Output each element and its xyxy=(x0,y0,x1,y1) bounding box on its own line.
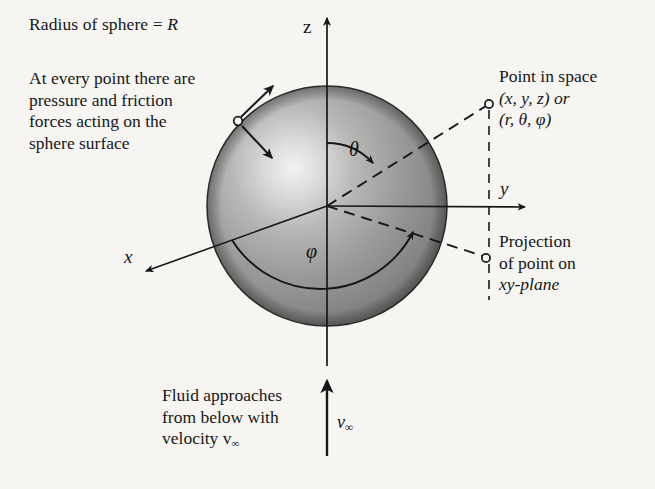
projection-of-point-note: Projection of point on xy-plane xyxy=(499,231,649,296)
velocity-subscript: ∞ xyxy=(345,421,353,433)
radius-symbol: R xyxy=(167,14,178,34)
projection-note-line-3: xy-plane xyxy=(499,274,649,296)
radius-note-text: Radius of sphere = xyxy=(29,14,167,34)
surface-note-line-4: sphere surface xyxy=(29,133,244,155)
figure-sphere-spherical-coordinates: Radius of sphere = R At every point ther… xyxy=(0,0,655,489)
phi-angle-label: φ xyxy=(306,240,317,263)
fluid-note-line-3-text: velocity v xyxy=(162,428,232,448)
projection-note-line-2: of point on xyxy=(499,253,649,275)
x-axis-label: x xyxy=(124,246,132,268)
fluid-note-velocity-subscript: ∞ xyxy=(232,437,240,449)
surface-note-line-3: forces acting on the xyxy=(29,111,244,133)
surface-note-line-2: pressure and friction xyxy=(29,90,244,112)
fluid-note-line-3: velocity v∞ xyxy=(162,428,327,455)
projection-note-line-1: Projection xyxy=(499,231,649,253)
point-note-line-3: (r, θ, φ) xyxy=(499,109,649,131)
theta-angle-label: θ xyxy=(349,138,359,161)
velocity-arrow-label: v∞ xyxy=(337,412,353,433)
fluid-note-line-1: Fluid approaches xyxy=(162,385,327,407)
z-axis-label: z xyxy=(303,16,311,38)
projection-point-marker xyxy=(482,254,490,262)
fluid-approach-note: Fluid approaches from below with velocit… xyxy=(162,385,327,455)
point-in-space-marker xyxy=(485,100,493,108)
fluid-note-line-2: from below with xyxy=(162,407,327,429)
y-axis-label: y xyxy=(500,178,508,200)
radius-of-sphere-note: Radius of sphere = R xyxy=(29,14,178,35)
velocity-symbol: v xyxy=(337,412,345,432)
point-note-line-2: (x, y, z) or xyxy=(499,88,649,110)
surface-forces-note: At every point there are pressure and fr… xyxy=(29,68,244,154)
surface-note-line-1: At every point there are xyxy=(29,68,244,90)
point-note-line-1: Point in space xyxy=(499,66,649,88)
y-axis-line xyxy=(327,206,525,207)
point-in-space-note: Point in space (x, y, z) or (r, θ, φ) xyxy=(499,66,649,131)
